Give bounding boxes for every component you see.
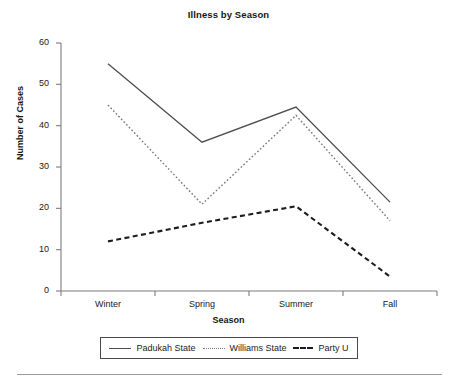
y-tick-label: 40 [23, 120, 49, 130]
chart-legend: Padukah State Williams State Party U [100, 337, 358, 359]
dashed-line-swatch-icon [293, 347, 313, 349]
solid-line-swatch-icon [109, 348, 131, 349]
series-line-williams-state [108, 105, 390, 221]
y-tick-label: 50 [23, 78, 49, 88]
y-tick-label: 60 [23, 37, 49, 47]
y-tick-label: 30 [23, 161, 49, 171]
data-series-group [108, 64, 390, 277]
y-tick-label: 20 [23, 202, 49, 212]
x-axis-ticks [61, 291, 437, 296]
bottom-divider [17, 374, 442, 375]
dotted-line-swatch-icon [203, 348, 225, 349]
x-tick-label: Fall [343, 299, 437, 309]
series-line-party-u [108, 206, 390, 276]
legend-item-party-u[interactable]: Party U [293, 343, 348, 353]
x-tick-label: Spring [155, 299, 249, 309]
y-tick-label: 0 [23, 285, 49, 295]
legend-item-williams-state[interactable]: Williams State [203, 343, 287, 353]
legend-label: Party U [318, 343, 348, 353]
series-line-padukah-state [108, 64, 390, 202]
x-tick-label: Winter [61, 299, 155, 309]
line-chart: Illness by Season Number of Cases 605040… [0, 0, 457, 386]
legend-label: Williams State [230, 343, 287, 353]
legend-item-padukah-state[interactable]: Padukah State [109, 343, 195, 353]
plot-area [0, 0, 457, 386]
x-axis-title: Season [0, 315, 457, 325]
legend-label: Padukah State [136, 343, 195, 353]
x-tick-label: Summer [249, 299, 343, 309]
y-axis-ticks [56, 43, 61, 291]
y-tick-label: 10 [23, 244, 49, 254]
